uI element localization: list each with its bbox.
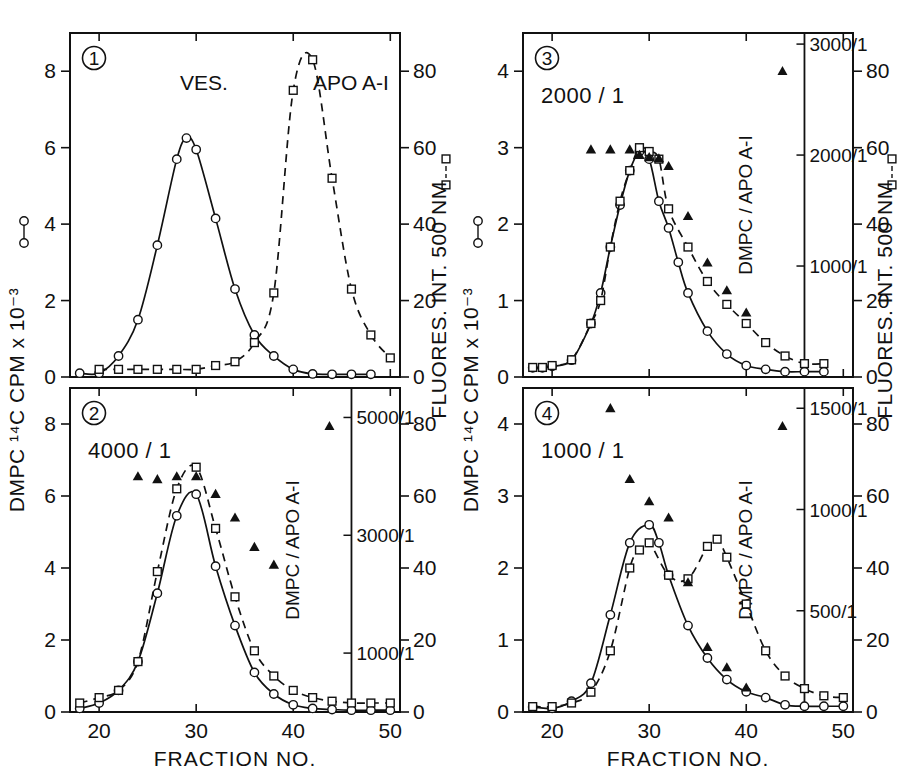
y-tick-label-left: 4	[44, 212, 56, 235]
data-point-circle	[231, 285, 239, 293]
x-tick-label: 20	[540, 719, 563, 742]
data-point-square	[348, 699, 356, 707]
x-tick-label: 50	[379, 719, 402, 742]
y-tick-label-left: 8	[44, 412, 56, 435]
y-tick-label-left: 6	[44, 484, 56, 507]
data-point-square	[704, 543, 712, 551]
data-point-square	[568, 699, 576, 707]
data-point-square	[616, 197, 624, 205]
data-point-square	[636, 546, 644, 554]
data-point-triangle	[191, 471, 201, 480]
inset-axis-label: DMPC / APO A-I	[735, 480, 756, 619]
data-point-circle	[703, 327, 711, 335]
data-point-square	[781, 672, 789, 680]
series-triangle	[605, 403, 751, 692]
four-panel-chromatography-figure: 024680204060801VES.APO A-I20304050024680…	[0, 0, 902, 775]
y-tick-label-right: 0	[413, 700, 425, 723]
y-tick-label-right: 20	[866, 628, 889, 651]
data-point-circle	[781, 367, 789, 375]
panel-4: 203040500123402040608041000 / 1500/11000…	[497, 388, 889, 770]
data-point-square	[95, 365, 103, 373]
data-point-triangle	[663, 512, 673, 521]
data-point-square	[801, 685, 809, 693]
data-point-square	[153, 568, 161, 576]
y-tick-label-left: 0	[497, 700, 509, 723]
data-point-circle	[192, 490, 200, 498]
legend-circle-left-column	[20, 217, 28, 247]
y-tick-label-left: 4	[44, 556, 56, 579]
data-point-circle	[800, 702, 808, 710]
data-point-triangle	[741, 683, 751, 692]
data-point-circle	[723, 675, 731, 683]
inset-axis-tick-label: 1000/1	[809, 256, 867, 277]
y-tick-label-right: 60	[866, 136, 889, 159]
x-tick-label: 40	[282, 719, 305, 742]
inset-axis-tick-label: 2000/1	[809, 145, 867, 166]
data-point-square	[153, 365, 161, 373]
inset-axis-label: DMPC / APO A-I	[282, 480, 303, 619]
legend-circle-icon	[474, 217, 482, 225]
legend-square-icon	[442, 155, 450, 163]
data-point-square	[529, 364, 537, 372]
data-point-circle	[664, 224, 672, 232]
data-point-circle	[606, 611, 614, 619]
panel-2: 203040500246802040608024000 / 11000/1300…	[44, 388, 436, 770]
data-point-triangle	[683, 211, 693, 220]
x-tick-label: 30	[184, 719, 207, 742]
data-point-square	[626, 564, 634, 572]
data-point-square	[192, 365, 200, 373]
annotation-ves: VES.	[180, 71, 228, 94]
data-point-circle	[173, 512, 181, 520]
figure-container: 024680204060801VES.APO A-I20304050024680…	[0, 0, 902, 775]
data-point-circle	[192, 145, 200, 153]
data-point-triangle	[741, 307, 751, 316]
y-tick-label-left: 3	[497, 136, 509, 159]
data-point-square	[820, 360, 828, 368]
data-point-circle	[328, 370, 336, 378]
data-point-square	[606, 647, 614, 655]
data-point-triangle	[249, 542, 259, 551]
inset-axis-tick-label: 1500/1	[809, 398, 867, 419]
right-axis-title-left-column: FLUORES. INT. 500 NM	[427, 181, 450, 419]
series-circle	[76, 134, 376, 379]
legend-circle-icon-2	[474, 239, 482, 247]
data-point-square	[251, 339, 259, 347]
y-tick-label-right: 60	[866, 484, 889, 507]
inset-axis-tick-label: 3000/1	[809, 34, 867, 55]
data-point-square	[723, 553, 731, 561]
data-point-circle	[674, 258, 682, 266]
data-point-triangle	[133, 471, 143, 480]
series-line-solid	[80, 137, 371, 374]
x-axis-title: FRACTION NO.	[154, 747, 317, 770]
inset-axis-tick-label: 3000/1	[356, 525, 414, 546]
data-point-square	[367, 699, 375, 707]
y-tick-label-left: 0	[44, 365, 56, 388]
data-point-square	[742, 600, 750, 608]
data-point-circle	[742, 361, 750, 369]
data-point-square	[587, 320, 595, 328]
data-point-square	[568, 356, 576, 364]
data-point-circle	[153, 241, 161, 249]
series-line-dashed	[99, 53, 390, 370]
data-point-triangle	[644, 496, 654, 505]
y-tick-label-right: 0	[413, 365, 425, 388]
data-point-square	[192, 463, 200, 471]
data-point-circle	[761, 365, 769, 373]
series-line-solid	[533, 525, 844, 709]
data-point-square	[289, 687, 297, 695]
data-point-circle	[231, 621, 239, 629]
data-point-circle	[211, 214, 219, 222]
data-point-circle	[270, 690, 278, 698]
data-point-square	[386, 699, 394, 707]
right-axis-title-right-column: FLUORES. INT. 500 NM	[873, 181, 896, 419]
panel-ratio-label: 1000 / 1	[541, 438, 625, 463]
data-point-square	[309, 694, 317, 702]
y-tick-label-right: 0	[866, 700, 878, 723]
data-point-triangle	[663, 161, 673, 170]
data-point-square	[606, 243, 614, 251]
data-point-square	[76, 699, 84, 707]
panel-ratio-label: 4000 / 1	[88, 438, 172, 463]
data-point-circle	[820, 702, 828, 710]
data-point-triangle	[586, 144, 596, 153]
series-triangle	[133, 471, 279, 568]
